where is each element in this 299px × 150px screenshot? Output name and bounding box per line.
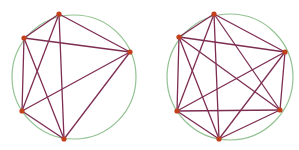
edge-lower-left-bottom xyxy=(177,111,219,139)
edge-upper-left-right xyxy=(24,38,130,52)
complete-graph-k6 xyxy=(167,11,293,141)
vertex-bottom xyxy=(61,136,66,141)
edge-right-lower-left xyxy=(22,52,130,111)
edge-upper-left-lower-left xyxy=(22,38,24,111)
vertex-lower-right xyxy=(277,107,282,112)
edge-top-bottom xyxy=(59,14,64,139)
vertex-top xyxy=(56,11,61,16)
edge-top-bottom xyxy=(214,14,219,139)
edge-lower-left-lower-right xyxy=(177,110,280,111)
vertex-lower-left xyxy=(174,108,179,113)
vertex-lower-left xyxy=(19,108,24,113)
edge-upper-left-lower-left xyxy=(177,37,179,111)
edge-lower-left-bottom xyxy=(22,111,64,139)
edge-right-lower-right xyxy=(280,52,285,110)
vertex-top xyxy=(211,11,216,16)
edge-right-bottom xyxy=(219,52,285,139)
edge-top-lower-left xyxy=(177,14,214,111)
edge-top-upper-left xyxy=(179,14,214,37)
vertex-upper-left xyxy=(21,35,26,40)
edge-top-right xyxy=(59,14,130,52)
edge-top-lower-left xyxy=(22,14,59,111)
graph-diagram xyxy=(0,0,299,150)
vertex-bottom xyxy=(216,136,221,141)
edge-right-bottom xyxy=(64,52,130,139)
vertex-right xyxy=(127,49,132,54)
complete-graph-k5 xyxy=(12,11,136,141)
vertex-right xyxy=(282,49,287,54)
edge-upper-left-lower-right xyxy=(179,37,280,110)
vertex-upper-left xyxy=(176,34,181,39)
